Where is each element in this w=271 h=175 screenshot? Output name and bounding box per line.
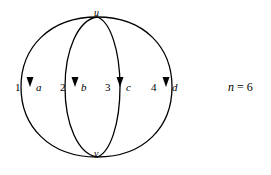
edge-name-d: d — [172, 82, 178, 93]
vertex-label-u: u — [94, 8, 99, 18]
vertex-label-v: v — [94, 149, 98, 159]
parameter-equals: = — [234, 80, 247, 94]
edge-index-4: 4 — [151, 82, 157, 93]
arrowhead-edge-3 — [117, 77, 124, 87]
edge-name-a: a — [36, 82, 42, 93]
edge-index-3: 3 — [105, 82, 111, 93]
edge-name-c: c — [126, 82, 131, 93]
parameter-value: 6 — [247, 80, 253, 94]
parameter-annotation: n = 6 — [228, 80, 253, 95]
arrowhead-edge-4 — [163, 77, 170, 87]
arrowhead-edge-2 — [72, 77, 79, 87]
graph-diagram — [0, 0, 200, 175]
figure-canvas: u v 1 a 2 b 3 c 4 d n = 6 — [0, 0, 271, 175]
edge-index-2: 2 — [60, 82, 66, 93]
edge-name-b: b — [81, 82, 87, 93]
edge-index-1: 1 — [15, 82, 21, 93]
arrowhead-edge-1 — [27, 77, 34, 87]
